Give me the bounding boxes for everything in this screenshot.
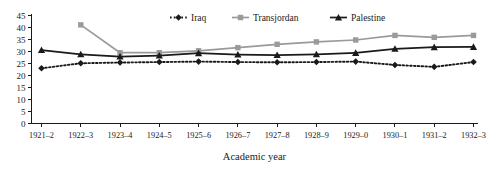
data-point-marker <box>77 60 84 67</box>
x-tick-label: 1921–2 <box>29 131 54 140</box>
series-line-segment <box>159 51 198 53</box>
series-line-segment <box>434 62 473 67</box>
x-axis-title: Academic year <box>223 151 287 162</box>
data-point-marker <box>195 58 202 65</box>
data-point-marker <box>117 59 124 66</box>
y-tick-label: 0 <box>21 119 26 129</box>
x-tick-label: 1926–7 <box>225 131 250 140</box>
x-tick-label: 1930–1 <box>383 131 408 140</box>
series-line-segment <box>277 42 316 44</box>
legend-item-iraq[interactable]: Iraq <box>170 13 207 23</box>
x-tick-label: 1927–8 <box>265 131 290 140</box>
y-tick-label: 15 <box>17 83 27 93</box>
data-point-marker <box>38 65 45 72</box>
series-transjordan <box>78 22 476 55</box>
legend-label: Palestine <box>351 13 385 23</box>
data-point-marker <box>432 35 437 40</box>
data-point-marker <box>274 59 281 66</box>
y-tick-label: 20 <box>17 71 27 81</box>
x-tick-label: 1929–0 <box>343 131 368 140</box>
series-line-segment <box>356 62 395 65</box>
data-point-marker <box>238 15 243 20</box>
y-tick-label: 25 <box>17 59 27 69</box>
data-point-marker <box>392 62 399 69</box>
line-chart: 0510152025303540451921–21922–31923–41924… <box>0 0 488 172</box>
x-tick-label: 1922–3 <box>68 131 93 140</box>
series-line-segment <box>316 40 355 42</box>
data-point-marker <box>235 59 242 66</box>
x-tick-label: 1925–6 <box>186 131 211 140</box>
series-line-segment <box>238 44 277 47</box>
series-line-segment <box>81 63 120 64</box>
data-point-marker <box>471 33 476 38</box>
data-point-marker <box>352 58 359 65</box>
y-tick-label: 45 <box>17 11 27 21</box>
series-line-segment <box>199 53 238 54</box>
series-line-segment <box>159 53 198 55</box>
x-tick-label: 1932–3 <box>461 131 486 140</box>
series-line-segment <box>81 25 120 53</box>
x-tick-label: 1924–5 <box>147 131 172 140</box>
series-line-segment <box>356 35 395 40</box>
y-tick-label: 40 <box>17 23 27 33</box>
y-tick-label: 35 <box>17 35 27 45</box>
x-tick-label: 1928–9 <box>304 131 329 140</box>
series-line-segment <box>434 35 473 37</box>
series-line-segment <box>395 35 434 37</box>
data-point-marker <box>235 45 240 50</box>
data-point-marker <box>470 59 477 66</box>
data-point-marker <box>313 59 320 66</box>
series-line-segment <box>199 48 238 51</box>
data-point-marker <box>78 22 83 27</box>
series-line-segment <box>42 50 81 54</box>
series-line-segment <box>120 56 159 57</box>
series-line-segment <box>356 49 395 53</box>
x-tick-label: 1923–4 <box>108 131 134 140</box>
data-point-marker <box>156 59 163 66</box>
legend-item-transjordan[interactable]: Transjordan <box>232 13 299 23</box>
data-point-marker <box>353 37 358 42</box>
series-line-segment <box>42 63 81 68</box>
series-line-segment <box>395 47 434 49</box>
data-point-marker <box>392 33 397 38</box>
chart-container: 0510152025303540451921–21922–31923–41924… <box>0 0 488 172</box>
legend-item-palestine[interactable]: Palestine <box>330 13 385 23</box>
y-tick-label: 5 <box>21 107 26 117</box>
series-line-segment <box>316 53 355 54</box>
data-point-marker <box>274 42 279 47</box>
x-tick-label: 1931–2 <box>422 131 447 140</box>
series-iraq <box>38 58 477 71</box>
series-line-segment <box>395 65 434 67</box>
data-point-marker <box>314 39 319 44</box>
legend-label: Iraq <box>191 13 207 23</box>
legend-label: Transjordan <box>253 13 299 23</box>
data-point-marker <box>431 64 438 71</box>
series-line-segment <box>277 54 316 55</box>
y-tick-label: 10 <box>17 95 27 105</box>
chart-legend: IraqTransjordanPalestine <box>170 13 385 23</box>
data-point-marker <box>175 14 182 21</box>
y-tick-label: 30 <box>17 47 27 57</box>
series-line-segment <box>81 54 120 56</box>
